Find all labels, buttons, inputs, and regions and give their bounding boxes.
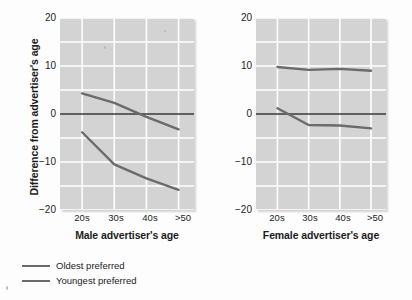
y-tick-label: −20 [30, 205, 56, 215]
y-tick-label: −10 [30, 157, 56, 167]
y-tick-label: −20 [226, 205, 252, 215]
legend-item-youngest-preferred: Youngest preferred [22, 273, 136, 288]
y-tick-label: 10 [226, 61, 252, 71]
x-tick-label: 30s [295, 213, 325, 223]
grid-and-lines-female [256, 18, 386, 210]
plot-area-male [60, 18, 194, 210]
x-tick-label: 30s [101, 213, 131, 223]
legend-item-oldest-preferred: Oldest preferred [22, 258, 136, 273]
y-tick-label: 20 [226, 13, 252, 23]
y-tick-label: −10 [226, 157, 252, 167]
y-tick-label: 20 [30, 13, 56, 23]
legend-item-label: Oldest preferred [56, 260, 125, 271]
x-tick-label: 20s [262, 213, 292, 223]
legend-line-swatch-icon [22, 280, 50, 282]
figure-two-panel-line-chart: Difference from advertiser's age 20 10 0… [0, 0, 412, 300]
x-axis-title-female: Female advertiser's age [244, 229, 398, 241]
plot-area-female [256, 18, 386, 210]
legend-line-swatch-icon [22, 265, 50, 267]
x-tick-label: >50 [168, 213, 198, 223]
legend: Oldest preferred Youngest preferred [22, 258, 136, 288]
grid-and-lines-male [60, 18, 194, 210]
y-tick-label: 0 [226, 109, 252, 119]
y-tick-label: 10 [30, 61, 56, 71]
legend-item-label: Youngest preferred [56, 275, 136, 286]
x-axis-title-male: Male advertiser's age [54, 229, 200, 241]
x-tick-label: 40s [328, 213, 358, 223]
x-tick-label: >50 [360, 213, 390, 223]
x-tick-label: 20s [67, 213, 97, 223]
y-tick-label: 0 [30, 109, 56, 119]
x-tick-label: 40s [135, 213, 165, 223]
